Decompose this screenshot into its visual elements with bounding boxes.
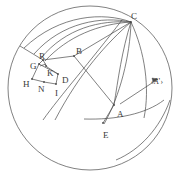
point-E (102, 122, 104, 124)
label-B: B (76, 47, 82, 56)
point-A (113, 104, 115, 106)
point-H (31, 78, 33, 80)
label-Aprime: ‹A’› (151, 78, 163, 86)
arc-C-long-right (131, 22, 146, 118)
arc-lower-left-diagonal (43, 20, 122, 120)
label-E: E (103, 131, 109, 140)
figure-canvas (0, 0, 180, 182)
segment-H-to-N (32, 79, 44, 82)
segment-B-to-A (74, 56, 114, 105)
arc-C-to-left-upper-2 (34, 20, 131, 54)
label-I: I (55, 89, 58, 98)
point-G (38, 63, 40, 65)
segment-A-to-E (103, 105, 114, 123)
point-D (57, 73, 59, 75)
label-D: D (62, 76, 69, 85)
arc-C-to-A-inner (114, 22, 131, 105)
point-B (73, 55, 75, 57)
arc-C-to-left-upper-1 (24, 17, 131, 48)
label-R: R (39, 52, 45, 61)
segment-C-to-B (74, 22, 131, 56)
point-C (130, 21, 132, 23)
meridian-arcs-group (24, 17, 146, 124)
label-N: N (38, 85, 45, 94)
point-I (55, 83, 57, 85)
geometry-figure: CBRGKHNIDAE‹A’› (0, 0, 180, 182)
point-N (43, 81, 45, 83)
point-K (45, 65, 47, 67)
label-G: G (30, 62, 37, 71)
label-K: K (47, 69, 54, 78)
arc-through-E-right (84, 100, 164, 119)
label-C: C (131, 12, 137, 21)
label-H: H (23, 80, 30, 89)
label-A: A (117, 110, 124, 119)
segment-I-to-D (56, 74, 58, 84)
segment-N-to-I (44, 82, 56, 84)
